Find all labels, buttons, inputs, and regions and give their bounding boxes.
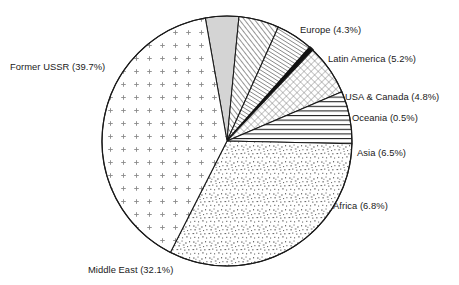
slice-label-africa: Africa (6.8%): [333, 201, 388, 210]
slice-label-oceania: Oceania (0.5%): [352, 113, 418, 122]
slice-label-europe: Europe (4.3%): [300, 25, 361, 34]
slice-label-usa-canada: USA & Canada (4.8%): [345, 92, 439, 101]
slice-label-former-ussr: Former USSR (39.7%): [10, 62, 105, 71]
slice-label-latin-america: Latin America (5.2%): [328, 54, 416, 63]
pie-chart-canvas: [0, 0, 459, 285]
pie-chart-figure: Europe (4.3%) Latin America (5.2%) USA &…: [0, 0, 459, 285]
slice-label-asia: Asia (6.5%): [357, 148, 406, 157]
slice-label-middle-east: Middle East (32.1%): [88, 265, 173, 274]
pie-slices: [102, 16, 352, 266]
